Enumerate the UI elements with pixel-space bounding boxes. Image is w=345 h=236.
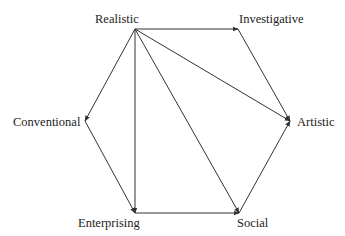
edge-realistic-to-social	[135, 29, 239, 213]
node-label-artistic: Artistic	[297, 115, 335, 130]
edge-realistic-to-artistic	[135, 29, 290, 121]
edges-group	[85, 29, 290, 213]
edge-social-to-artistic	[239, 121, 290, 213]
node-label-realistic: Realistic	[95, 12, 139, 27]
edge-investigative-to-artistic	[238, 29, 290, 121]
node-label-social: Social	[237, 216, 268, 231]
edge-conventional-to-enterprising	[85, 121, 135, 213]
node-label-enterprising: Enterprising	[78, 216, 140, 231]
node-label-conventional: Conventional	[13, 115, 80, 130]
node-label-investigative: Investigative	[239, 12, 304, 27]
edge-realistic-to-conventional	[85, 29, 135, 121]
